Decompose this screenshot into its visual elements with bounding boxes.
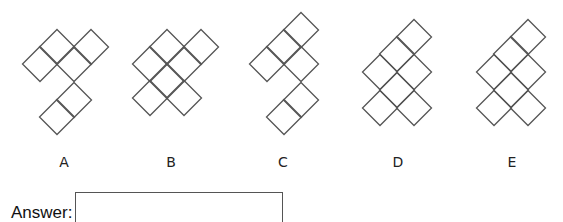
diamond-cell xyxy=(267,30,302,65)
diamond-cell xyxy=(184,30,219,65)
diamond-cell xyxy=(150,30,185,65)
diamond-cell xyxy=(167,47,202,82)
diamond-cell xyxy=(40,30,75,65)
diamond-cell xyxy=(511,55,546,90)
diamond-cell xyxy=(397,55,432,90)
figure-a xyxy=(23,30,109,135)
diamond-cell xyxy=(397,20,432,55)
figure-options xyxy=(0,0,563,145)
diamond-cell xyxy=(167,81,202,116)
diamond-cell xyxy=(477,91,512,126)
diamond-cell xyxy=(284,83,319,118)
diamond-cell xyxy=(284,13,319,48)
diamond-cell xyxy=(397,91,432,126)
diamond-cell xyxy=(284,47,319,82)
diamond-cell xyxy=(133,47,168,82)
diamond-cell xyxy=(380,37,415,72)
diamond-cell xyxy=(57,47,92,82)
diamond-cell xyxy=(267,100,302,135)
answer-input-box[interactable] xyxy=(75,192,283,222)
option-label-c: C xyxy=(273,154,293,170)
figure-d xyxy=(363,20,432,126)
diamond-cell xyxy=(494,73,529,108)
figure-c xyxy=(250,13,319,135)
diamond-cell xyxy=(363,55,398,90)
option-label-d: D xyxy=(388,154,408,170)
diamond-cell xyxy=(133,81,168,116)
figure-e xyxy=(477,20,546,126)
diamond-cell xyxy=(363,91,398,126)
figure-b xyxy=(133,30,219,116)
diamond-cell xyxy=(494,37,529,72)
answer-label: Answer: xyxy=(11,203,72,222)
diamond-cell xyxy=(380,73,415,108)
diamond-cell xyxy=(511,91,546,126)
option-label-e: E xyxy=(502,154,522,170)
diamond-cell xyxy=(74,30,109,65)
diamond-cell xyxy=(150,64,185,99)
diamond-cell xyxy=(57,83,92,118)
diamond-cell xyxy=(40,100,75,135)
diamond-cell xyxy=(250,47,285,82)
diamond-cell xyxy=(511,20,546,55)
option-label-a: A xyxy=(54,154,74,170)
diamond-cell xyxy=(23,47,58,82)
option-label-b: B xyxy=(161,154,181,170)
diamond-cell xyxy=(477,55,512,90)
